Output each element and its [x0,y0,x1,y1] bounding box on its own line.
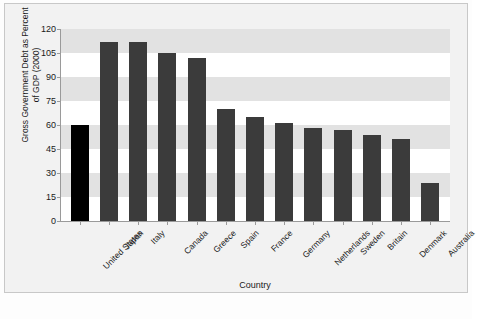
x-tick-mark [167,221,168,225]
x-tick-label: Australia [446,228,476,258]
x-tick-mark [80,221,81,225]
x-tick-label: Germany [300,228,332,260]
bar-slot [328,29,357,221]
y-tick-mark [57,197,61,198]
bar[interactable] [421,183,439,221]
bar[interactable] [363,135,381,221]
bar[interactable] [129,42,147,221]
bar[interactable] [334,130,352,221]
bar-slot [211,29,240,221]
x-tick-label: Britain [385,228,409,252]
bar-slot [123,29,152,221]
bar-slot [65,29,94,221]
x-tick-label: Greece [211,228,238,255]
y-tick-mark [57,125,61,126]
bar-slot [416,29,445,221]
bar[interactable] [275,123,293,221]
y-axis-title: Gross Government Debt as Percent of GDP … [20,0,42,175]
bar[interactable] [100,42,118,221]
bar[interactable] [188,58,206,221]
x-tick-mark [226,221,227,225]
bar-slot [387,29,416,221]
y-tick-mark [57,77,61,78]
bar[interactable] [392,139,410,221]
y-tick-label: 90 [46,72,56,82]
x-axis-title: Country [60,280,450,290]
x-tick-label: Denmark [417,228,448,259]
bar-slot [182,29,211,221]
y-tick-label: 15 [46,192,56,202]
y-tick-label: 75 [46,96,56,106]
x-tick-mark [109,221,110,225]
bar[interactable] [217,109,235,221]
y-tick-mark [57,101,61,102]
x-tick-mark [430,221,431,225]
x-tick-label: Japan [122,228,145,251]
y-tick-mark [57,221,61,222]
x-tick-mark [343,221,344,225]
bar-slot [240,29,269,221]
y-tick-mark [57,53,61,54]
x-tick-mark [138,221,139,225]
bar[interactable] [71,125,89,221]
x-tick-label: Italy [149,228,167,246]
bar[interactable] [158,53,176,221]
x-tick-label: Spain [238,228,260,250]
y-tick-mark [57,149,61,150]
bar-slot [357,29,386,221]
y-tick-label: 105 [41,48,56,58]
x-tick-label: Canada [182,228,210,256]
x-tick-mark [284,221,285,225]
x-axis-tick-labels: United StatesJapanItalyCanadaGreeceSpain… [60,224,450,276]
y-tick-mark [57,173,61,174]
y-tick-label: 60 [46,120,56,130]
y-tick-label: 0 [51,216,56,226]
bar-slot [299,29,328,221]
x-tick-mark [313,221,314,225]
y-tick-label: 120 [41,24,56,34]
bar-slot [94,29,123,221]
y-tick-label: 30 [46,168,56,178]
bar-slot [270,29,299,221]
y-axis-title-line1: Gross Government Debt as Percent [20,7,30,142]
chart-frame: 0153045607590105120 Gross Government Deb… [4,3,468,293]
bar[interactable] [304,128,322,221]
plot-area [60,29,450,221]
bar[interactable] [246,117,264,221]
x-tick-label: France [269,228,295,254]
y-tick-label: 45 [46,144,56,154]
x-tick-mark [401,221,402,225]
y-tick-mark [57,29,61,30]
x-tick-mark [255,221,256,225]
bar-series [60,29,450,221]
bar-slot [153,29,182,221]
x-tick-mark [197,221,198,225]
x-tick-mark [372,221,373,225]
y-axis-title-line2: of GDP (2000) [31,48,41,103]
